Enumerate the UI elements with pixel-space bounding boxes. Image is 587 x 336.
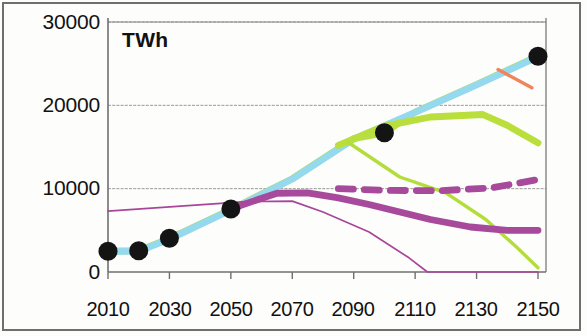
grid-lines	[108, 22, 546, 189]
plot-canvas	[0, 0, 587, 336]
data-marker	[129, 241, 148, 260]
data-marker	[221, 200, 240, 219]
x-tick-label: 2070	[262, 298, 322, 321]
axis-ticks	[108, 272, 538, 279]
x-tick-label: 2130	[446, 298, 506, 321]
y-tick-label: 30000	[4, 10, 100, 34]
x-tick-label: 2050	[201, 298, 261, 321]
series-total-demand-light-blue	[108, 57, 538, 252]
y-tick-label: 10000	[4, 176, 100, 200]
series-orange-marker-segment	[498, 70, 532, 88]
x-tick-label: 2090	[323, 298, 383, 321]
x-tick-label: 2030	[140, 298, 200, 321]
data-marker	[160, 229, 179, 248]
data-marker	[529, 47, 548, 66]
x-tick-label: 2010	[78, 298, 138, 321]
data-marker	[375, 123, 394, 142]
chart-figure: TWh 3000020000100000 2010203020502070209…	[0, 0, 587, 336]
y-tick-label: 0	[4, 260, 100, 284]
data-marker	[99, 242, 118, 261]
x-tick-label: 2110	[385, 298, 445, 321]
series-branch-green-plateau	[338, 115, 538, 146]
x-tick-label: 2150	[508, 298, 568, 321]
y-tick-label: 20000	[4, 93, 100, 117]
